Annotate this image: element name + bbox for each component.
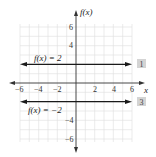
y-tick-neg4: −4: [65, 116, 74, 125]
x-axis-label: x: [143, 85, 148, 95]
x-tick-6: 6: [130, 85, 134, 94]
x-tick-neg2: −2: [53, 85, 62, 94]
arrow-right-icon: [125, 99, 132, 104]
arrow-right-icon: [125, 62, 132, 67]
y-axis-down-arrow-icon: [74, 147, 78, 153]
badge-lower-text: 3: [140, 98, 144, 107]
arrow-left-icon: [20, 99, 27, 104]
x-tick-neg4: −4: [34, 85, 43, 94]
y-tick-6: 6: [69, 23, 73, 32]
arrow-left-icon: [20, 62, 27, 67]
badge-upper-text: 1: [140, 60, 144, 69]
graph: f(x) x −6 −4 −2 2 4 6 6 4 −4 −6 f(x) = 2…: [0, 0, 156, 157]
y-tick-4: 4: [69, 41, 73, 50]
y-axis-label: f(x): [80, 7, 93, 17]
line-label-lower: f(x) = −2: [28, 105, 62, 115]
x-tick-neg6: −6: [15, 85, 24, 94]
x-tick-4: 4: [112, 85, 116, 94]
y-tick-neg6: −6: [65, 135, 74, 144]
y-axis: [74, 10, 78, 153]
line-label-upper: f(x) = 2: [34, 53, 62, 63]
y-axis-up-arrow-icon: [74, 10, 78, 16]
x-tick-2: 2: [93, 85, 97, 94]
